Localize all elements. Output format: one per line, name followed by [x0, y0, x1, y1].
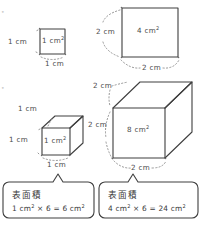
callout-left-formula-sup2: 2: [82, 203, 85, 209]
callout-left-formula: 1 cm2 × 6 = 6 cm2: [12, 204, 85, 213]
large-cube-bottom-label: 2 cm: [131, 164, 150, 171]
large-cube-top-face: [113, 82, 192, 108]
callout-right-formula-sup2: 2: [182, 203, 185, 209]
small-square-bottom-label: 1 cm: [45, 60, 64, 67]
large-square-face-label: 4 cm2: [137, 27, 160, 34]
large-cube-top-label: 2 cm: [93, 82, 112, 89]
callout-left-formula-mid: × 6 = 6 cm: [35, 204, 82, 213]
callout-right-content: 表面積 4 cm2 × 6 = 24 cm2: [108, 188, 186, 213]
callout-right-formula: 4 cm2 × 6 = 24 cm2: [108, 204, 186, 213]
small-cube-right-face: [70, 116, 83, 155]
large-cube-face-exponent: 2: [146, 124, 149, 130]
callout-left-title: 表面積: [12, 188, 85, 200]
small-square-left-leader: [36, 30, 38, 53]
small-cube-face-label: 1 cm2: [44, 137, 67, 144]
large-square-bottom-leader-right: [163, 60, 179, 68]
small-cube-bottom-label: 1 cm: [47, 161, 66, 168]
callout-left-content: 表面積 1 cm2 × 6 = 6 cm2: [12, 188, 85, 213]
callout-right-formula-mid: × 6 = 24 cm: [131, 204, 183, 213]
small-square-face-label: 1 cm2: [42, 37, 65, 44]
large-cube-bottom-leader: [114, 161, 132, 168]
small-cube-left-label: 1 cm: [9, 136, 28, 143]
small-square-face-exponent: 2: [61, 35, 64, 41]
large-cube-top-leader-b: [109, 90, 110, 106]
large-square-face-value: 4 cm: [137, 26, 156, 35]
large-cube-top-leader: [112, 82, 128, 86]
callout-right-formula-pre: 4 cm: [108, 204, 127, 213]
large-square-face-exponent: 2: [156, 25, 159, 31]
large-square-bottom-label: 2 cm: [142, 64, 161, 71]
small-cube-left-leader: [38, 129, 40, 155]
large-square-left-label: 2 cm: [96, 28, 115, 35]
callout-right-title: 表面積: [108, 188, 186, 200]
page-edge-mark-bottom: •: [1, 84, 5, 91]
large-cube-left-label: 2 cm: [88, 121, 107, 128]
worksheet-figure: 1 cm 1 cm2 1 cm 2 cm 4 cm2 2 cm 1 cm 1 c…: [0, 0, 201, 225]
callout-left-formula-pre: 1 cm: [12, 204, 31, 213]
large-cube-face-value: 8 cm: [127, 125, 146, 134]
small-cube-face-value: 1 cm: [44, 136, 63, 145]
small-square-left-label: 1 cm: [8, 38, 27, 45]
small-square-face-value: 1 cm: [42, 36, 61, 45]
large-cube-left-leader-b: [106, 142, 113, 160]
large-square-left-leader-lower: [103, 42, 120, 57]
large-square-left-leader: [103, 10, 120, 22]
large-square-bottom-leader: [121, 60, 140, 68]
large-cube-right-face: [165, 82, 192, 158]
small-cube-face-exponent: 2: [63, 135, 66, 141]
page-edge-mark-top: •: [1, 8, 5, 15]
large-cube-face-label: 8 cm2: [127, 126, 150, 133]
large-cube-bottom-leader-right: [152, 161, 166, 168]
small-cube-top-label: 1 cm: [18, 105, 37, 112]
